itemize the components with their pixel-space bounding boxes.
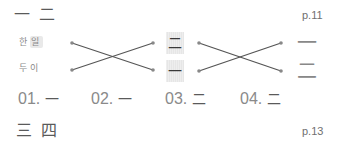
middle-char-1: 二 bbox=[168, 36, 182, 50]
answer-2-char: 一 bbox=[118, 91, 132, 107]
answer-4-number: 04. bbox=[240, 90, 262, 107]
connector-dot bbox=[197, 41, 201, 45]
answer-2-number: 02. bbox=[91, 90, 113, 107]
answer-1-number: 01. bbox=[18, 90, 40, 107]
answer-4-char: 二 bbox=[267, 91, 281, 107]
section-heading-bottom: 三 四 bbox=[16, 123, 59, 139]
right-char-2: 二 bbox=[297, 61, 317, 81]
middle-char-box-2: 一 bbox=[166, 60, 184, 82]
connector-dot bbox=[197, 69, 201, 73]
connector-dot bbox=[70, 41, 74, 45]
right-char-1: 一 bbox=[297, 33, 317, 53]
connector-dot bbox=[279, 69, 283, 73]
page-reference-bottom: p.13 bbox=[302, 126, 323, 137]
answer-1-char: 一 bbox=[45, 91, 59, 107]
answer-3: 03. 二 bbox=[165, 91, 206, 107]
answer-1: 01. 一 bbox=[18, 91, 59, 107]
answer-2: 02. 一 bbox=[91, 91, 132, 107]
connector-dot bbox=[151, 68, 155, 72]
connector-dot bbox=[151, 41, 155, 45]
answer-3-char: 二 bbox=[192, 91, 206, 107]
middle-char-2: 一 bbox=[168, 64, 182, 78]
middle-char-box-1: 二 bbox=[166, 32, 184, 54]
connector-dot bbox=[70, 68, 74, 72]
answer-3-number: 03. bbox=[165, 90, 187, 107]
connector-dot bbox=[279, 41, 283, 45]
answer-4: 04. 二 bbox=[240, 91, 281, 107]
